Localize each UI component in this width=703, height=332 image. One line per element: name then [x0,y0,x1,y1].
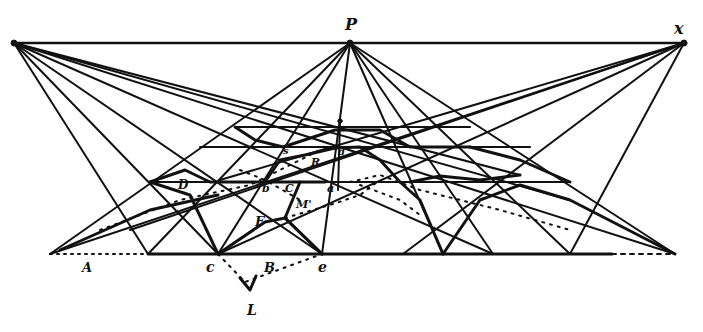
label-M: M' [295,198,312,211]
label-D: D [177,178,189,192]
point-top-d [338,119,342,123]
label-C: C [285,182,294,195]
label-A: A [80,260,92,275]
distance-point-x [681,40,687,46]
label-x: x [673,19,684,38]
labels: P x A c B e L D b C a s R d M' F [80,15,684,318]
transversals [150,127,570,182]
label-L: L [246,302,257,318]
label-b: b [262,182,270,195]
label-B: B [263,260,275,275]
label-e: e [318,259,327,275]
label-P: P [344,15,358,34]
label-s: s [283,145,289,156]
label-R: R [310,156,320,169]
label-F: F [254,214,265,229]
label-a: a [327,182,334,195]
perspective-pavement-diagram: P x A c B e L D b C a s R d M' F [0,0,703,332]
right-distance-rays [50,43,684,254]
vanishing-point-P [347,40,353,46]
label-c: c [206,259,215,275]
distance-point-left [11,40,17,46]
label-d: d [338,146,345,157]
